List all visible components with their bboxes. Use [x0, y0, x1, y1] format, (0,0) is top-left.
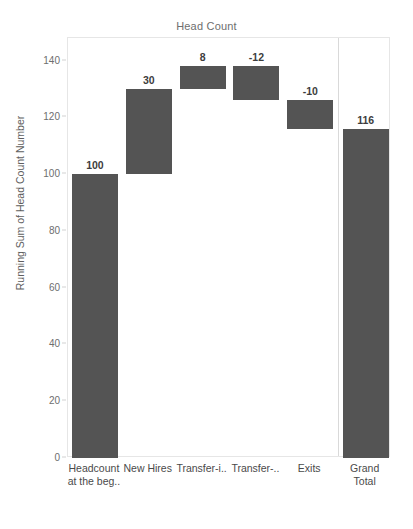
bar[interactable] — [72, 174, 118, 458]
y-axis-tick-label: 40 — [0, 338, 60, 349]
bar[interactable] — [233, 66, 279, 100]
bar[interactable] — [343, 129, 389, 458]
bar[interactable] — [180, 66, 226, 89]
bar-value-label: 8 — [200, 51, 206, 63]
x-axis-tick-label: Grand Total — [350, 462, 379, 487]
bar[interactable] — [126, 89, 172, 174]
y-axis-tick-mark — [62, 173, 66, 174]
bar-value-label: 30 — [143, 74, 155, 86]
bar-value-label: 116 — [357, 114, 374, 126]
y-axis-tick-mark — [62, 286, 66, 287]
bar[interactable] — [287, 100, 333, 128]
bar-value-label: -10 — [303, 85, 318, 97]
chart-title: Head Count — [0, 20, 413, 32]
y-axis-tick-mark — [62, 59, 66, 60]
y-axis-tick-mark — [62, 116, 66, 117]
bar-value-label: -12 — [249, 51, 264, 63]
x-axis-tick-label: Exits — [298, 462, 321, 475]
y-axis-tick-mark — [62, 400, 66, 401]
plot-inner: 100308-12-10116 — [68, 38, 389, 456]
x-axis-tick-label: Headcount at the beg.. — [68, 462, 121, 487]
y-axis-tick-label: 20 — [0, 395, 60, 406]
waterfall-chart: Head Count Running Sum of Head Count Num… — [0, 0, 413, 529]
y-axis-tick-label: 80 — [0, 224, 60, 235]
y-axis-tick-label: 0 — [0, 452, 60, 463]
bar-value-label: 100 — [86, 159, 104, 171]
x-axis-tick-label: New Hires — [124, 462, 172, 475]
y-axis-title: Running Sum of Head Count Number — [14, 13, 26, 393]
y-axis-tick-label: 60 — [0, 281, 60, 292]
y-axis-tick-label: 100 — [0, 168, 60, 179]
y-axis-tick-mark — [62, 457, 66, 458]
x-axis-tick-label: Transfer-.. — [231, 462, 279, 475]
plot-area: 100308-12-10116 — [67, 37, 390, 457]
y-axis-tick-mark — [62, 343, 66, 344]
y-axis-tick-label: 140 — [0, 54, 60, 65]
grand-total-separator — [338, 38, 339, 456]
y-axis-tick-mark — [62, 229, 66, 230]
x-axis-tick-label: Transfer-i.. — [176, 462, 226, 475]
y-axis-tick-label: 120 — [0, 111, 60, 122]
